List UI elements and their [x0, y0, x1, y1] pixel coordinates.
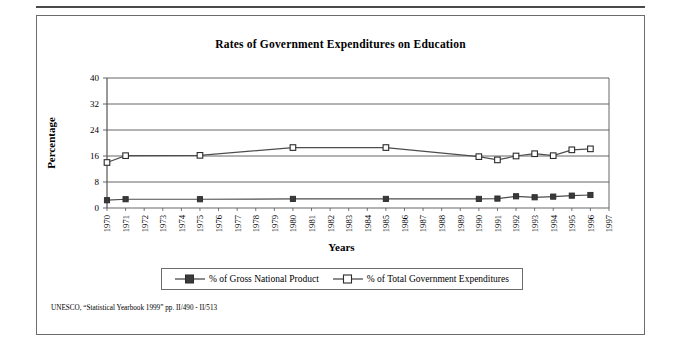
data-point-marker: [476, 196, 481, 201]
x-tick-label: 1979: [270, 215, 280, 232]
data-point-marker: [532, 195, 537, 200]
data-point-marker: [551, 194, 556, 199]
chart-legend: % of Gross National Product % of Total G…: [161, 268, 523, 290]
data-point-marker: [513, 153, 519, 159]
x-tick-label: 1972: [140, 215, 150, 232]
data-point-marker: [104, 198, 109, 203]
x-axis-title: Years: [37, 241, 646, 253]
x-tick-label: 1982: [326, 215, 336, 232]
x-tick-label: 1984: [363, 214, 373, 232]
x-tick-label: 1976: [214, 214, 224, 232]
source-footnote: UNESCO, “Statistical Yearbook 1999” pp. …: [51, 304, 217, 312]
data-point-marker: [495, 157, 501, 163]
x-tick-label: 1997: [604, 214, 614, 232]
legend-item-gnp: % of Gross National Product: [175, 273, 319, 285]
legend-label-gov: % of Total Government Expenditures: [367, 274, 509, 284]
y-tick-label: 24: [90, 125, 100, 135]
x-tick-label: 1985: [381, 215, 391, 232]
y-tick-label: 16: [90, 151, 100, 161]
data-point-marker: [123, 197, 128, 202]
x-tick-label: 1992: [511, 215, 521, 232]
x-tick-label: 1989: [456, 215, 466, 232]
x-tick-label: 1995: [567, 215, 577, 232]
data-point-marker: [476, 154, 482, 160]
x-tick-label: 1983: [344, 215, 354, 232]
data-point-marker: [550, 153, 556, 159]
y-tick-label: 40: [90, 73, 100, 83]
x-tick-label: 1981: [307, 215, 317, 232]
data-point-marker: [104, 160, 110, 166]
x-tick-label: 1986: [400, 214, 410, 232]
data-point-marker: [290, 196, 295, 201]
page-title: Rates of Government Expenditures on Educ…: [37, 38, 644, 50]
x-tick-label: 1978: [251, 215, 261, 232]
figure-page: Rates of Government Expenditures on Educ…: [0, 0, 677, 348]
legend-marker-gov-icon: [333, 273, 363, 285]
x-tick-label: 1990: [474, 215, 484, 232]
y-tick-label: 0: [95, 203, 100, 213]
data-point-marker: [290, 145, 296, 151]
legend-label-gnp: % of Gross National Product: [209, 274, 319, 284]
legend-marker-gnp-icon: [175, 273, 205, 285]
y-tick-label: 32: [90, 99, 99, 109]
x-tick-label: 1993: [530, 215, 540, 232]
legend-item-gov: % of Total Government Expenditures: [333, 273, 509, 285]
x-tick-label: 1987: [418, 214, 428, 232]
x-tick-label: 1994: [549, 214, 559, 232]
x-tick-label: 1971: [121, 215, 131, 232]
x-tick-label: 1974: [177, 214, 187, 232]
x-tick-label: 1970: [102, 215, 112, 232]
data-point-marker: [588, 146, 594, 152]
figure-frame: Rates of Government Expenditures on Educ…: [36, 15, 645, 335]
x-tick-label: 1988: [437, 215, 447, 232]
data-point-marker: [197, 197, 202, 202]
data-point-marker: [123, 153, 129, 159]
top-rule-divider: [36, 6, 645, 8]
x-tick-label: 1980: [288, 215, 298, 232]
x-tick-label: 1977: [233, 214, 243, 232]
data-point-marker: [532, 151, 538, 157]
data-point-marker: [197, 153, 203, 159]
data-point-marker: [513, 194, 518, 199]
x-tick-label: 1973: [158, 215, 168, 232]
y-tick-label: 8: [95, 177, 100, 187]
x-tick-label: 1996: [586, 214, 596, 232]
data-point-marker: [569, 147, 575, 153]
y-axis-title: Percentage: [45, 117, 57, 169]
data-point-marker: [495, 196, 500, 201]
data-point-marker: [588, 192, 593, 197]
x-tick-label: 1975: [195, 215, 205, 232]
data-point-marker: [569, 193, 574, 198]
x-tick-label: 1991: [493, 215, 503, 232]
data-point-marker: [383, 145, 389, 151]
data-point-marker: [383, 196, 388, 201]
